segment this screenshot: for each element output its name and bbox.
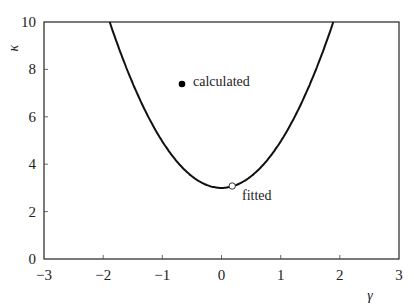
y-tick-label: 10 [21,14,36,30]
x-ticks [103,255,340,259]
fitted-label: fitted [242,188,272,203]
fitted-point [229,183,235,189]
y-tick-label: 8 [29,61,37,77]
y-tick-label: 4 [29,156,37,172]
x-tick-label: −3 [36,267,52,283]
chart: 0 2 4 6 8 10 −3 −2 −1 0 1 2 3 γ κ calcul… [0,0,414,308]
x-axis-label: γ [367,288,373,303]
x-tick-label: 3 [395,267,403,283]
x-tick-label: 2 [336,267,344,283]
calculated-point [179,81,186,88]
x-tick-label: −2 [95,267,111,283]
x-tick-label: 1 [277,267,285,283]
y-tick-label: 2 [29,204,37,220]
fit-curve [110,22,334,188]
y-tick-label: 0 [29,251,37,267]
y-tick-label: 6 [29,109,37,125]
plot-frame [44,22,399,259]
y-axis-label: κ [6,44,21,51]
x-tick-label: −1 [154,267,170,283]
x-tick-label: 0 [218,267,226,283]
calculated-label: calculated [193,74,250,89]
